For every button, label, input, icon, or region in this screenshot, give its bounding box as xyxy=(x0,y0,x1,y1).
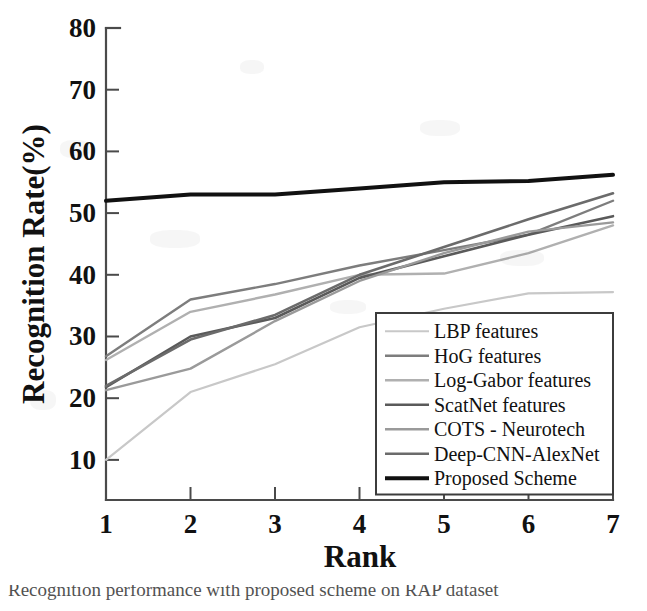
legend-label: HoG features xyxy=(434,345,541,367)
x-tick-label: 5 xyxy=(437,509,451,539)
y-axis-tick-labels: 1020304050607080 xyxy=(69,13,96,475)
y-tick-label: 70 xyxy=(69,75,96,105)
y-tick-label: 20 xyxy=(69,383,96,413)
x-tick-label: 4 xyxy=(353,509,367,539)
legend-label: Log-Gabor features xyxy=(434,369,591,392)
x-tick-label: 6 xyxy=(522,509,536,539)
x-tick-label: 7 xyxy=(606,509,620,539)
legend-label: ScatNet features xyxy=(434,394,566,416)
x-axis-title: Rank xyxy=(324,539,397,574)
y-axis-title: Recognition Rate(%) xyxy=(16,124,51,404)
figure-recognition-rate-chart: 1020304050607080 1234567 Recognition Rat… xyxy=(0,0,647,611)
y-tick-label: 10 xyxy=(69,445,96,475)
legend-label: Proposed Scheme xyxy=(434,467,577,490)
figure-caption: Recognition performance with proposed sc… xyxy=(8,585,647,601)
line-chart: 1020304050607080 1234567 Recognition Rat… xyxy=(0,0,647,575)
legend-label: COTS - Neurotech xyxy=(434,418,585,440)
y-tick-label: 50 xyxy=(69,198,96,228)
y-tick-label: 80 xyxy=(69,13,96,43)
chart-legend: LBP featuresHoG featuresLog-Gabor featur… xyxy=(376,313,613,495)
y-tick-label: 40 xyxy=(69,260,96,290)
figure-caption-strip: Recognition performance with proposed sc… xyxy=(0,585,647,611)
x-tick-label: 2 xyxy=(184,509,198,539)
x-tick-label: 3 xyxy=(268,509,282,539)
x-tick-label: 1 xyxy=(99,509,113,539)
y-tick-label: 30 xyxy=(69,321,96,351)
legend-label: LBP features xyxy=(434,320,538,342)
legend-label: Deep-CNN-AlexNet xyxy=(434,443,600,466)
x-axis-tick-labels: 1234567 xyxy=(99,509,620,539)
y-tick-label: 60 xyxy=(69,136,96,166)
